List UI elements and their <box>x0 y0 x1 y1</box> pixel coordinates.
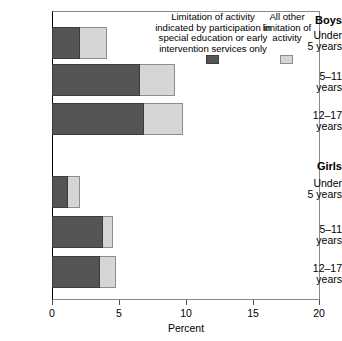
x-axis-label-20: 20 <box>304 307 334 319</box>
bar-girls-12-17 <box>52 256 116 288</box>
x-axis-tick-10 <box>186 300 187 305</box>
bar-segment-other-limitation <box>100 256 116 288</box>
bar-girls-5-11 <box>52 216 113 248</box>
bar-boys-5-11 <box>52 64 175 96</box>
x-axis-tick-5 <box>119 300 120 305</box>
bar-segment-special-education <box>52 64 140 96</box>
x-axis-title: Percent <box>52 322 320 334</box>
x-axis-tick-15 <box>253 300 254 305</box>
category-label-boys-12-17-line2: years <box>292 121 342 133</box>
x-axis-label-10: 10 <box>171 307 201 319</box>
bar-segment-other-limitation <box>144 103 183 135</box>
bar-segment-special-education <box>52 216 103 248</box>
bar-segment-special-education <box>52 256 100 288</box>
legend-text-line4: intervention services only <box>140 44 286 55</box>
group-label-girls: Girls <box>292 160 342 172</box>
bar-segment-special-education <box>52 176 68 208</box>
bar-segment-other-limitation <box>80 27 107 59</box>
x-axis-label-15: 15 <box>238 307 268 319</box>
category-label-girls-12-17-line2: years <box>292 274 342 286</box>
legend-entry-other-limitation: All other limitation of activity <box>252 12 322 44</box>
bar-segment-special-education <box>52 103 144 135</box>
legend-swatch-special-education-icon <box>206 55 219 64</box>
bar-girls-under-5 <box>52 176 80 208</box>
legend-text-line3: activity <box>252 33 322 44</box>
x-axis-tick-20 <box>319 300 320 305</box>
activity-limitation-bar-chart: Boys Under 5 years 5–11 years 12–17 year… <box>0 0 342 341</box>
bar-segment-other-limitation <box>140 64 175 96</box>
bar-boys-under-5 <box>52 27 107 59</box>
category-label-girls-5-11-line2: years <box>292 235 342 247</box>
bar-segment-other-limitation <box>68 176 80 208</box>
legend-text-line1: All other <box>252 12 322 23</box>
legend-swatch-other-limitation-icon <box>280 55 293 64</box>
x-axis-label-0: 0 <box>37 307 67 319</box>
bar-boys-12-17 <box>52 103 183 135</box>
bar-segment-other-limitation <box>103 216 114 248</box>
category-label-girls-under-5-line2: 5 years <box>292 189 342 201</box>
category-label-boys-5-11-line2: years <box>292 82 342 94</box>
x-axis-label-5: 5 <box>104 307 134 319</box>
bar-segment-special-education <box>52 27 80 59</box>
x-axis-tick-0 <box>52 300 53 305</box>
